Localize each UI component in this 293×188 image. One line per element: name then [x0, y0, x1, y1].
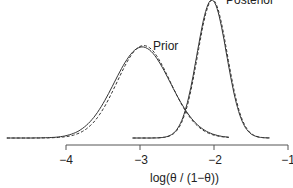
tick-label-neg2: −2 — [208, 153, 222, 167]
prior-label: Prior — [153, 39, 178, 53]
posterior-approximation-curve — [133, 0, 270, 138]
prior-approximation-curve — [7, 46, 229, 139]
density-curves — [7, 0, 270, 138]
posterior-label: Posterior — [226, 0, 274, 7]
tick-label-neg1: −1 — [281, 153, 293, 167]
posterior-exact-curve — [133, 0, 270, 138]
x-axis-label: log(θ / (1−θ)) — [150, 171, 219, 185]
tick-label-neg3: −3 — [134, 153, 148, 167]
tick-label-neg4: −4 — [59, 153, 73, 167]
x-axis — [66, 145, 288, 150]
